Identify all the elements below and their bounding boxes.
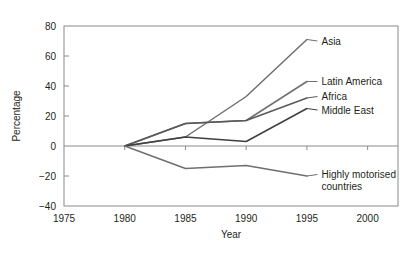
- x-axis-tick-label: 1995: [296, 213, 319, 224]
- y-axis-title: Percentage: [11, 90, 22, 142]
- x-axis-tick-label: 1990: [235, 213, 258, 224]
- y-axis-tick-label: 0: [50, 141, 56, 152]
- false: [307, 40, 318, 42]
- series-line-middle-east: [125, 109, 307, 147]
- y-axis-tick-label: −20: [39, 171, 56, 182]
- y-axis-tick-label: −40: [39, 201, 56, 212]
- series-label-africa: Africa: [321, 91, 347, 102]
- x-axis-tick-label: 2000: [357, 213, 380, 224]
- line-chart: −40−20020406080197519801985199019952000Y…: [0, 0, 413, 259]
- series-label-middle-east: Middle East: [321, 105, 373, 116]
- chart-canvas: −40−20020406080197519801985199019952000Y…: [0, 0, 413, 259]
- false: [307, 97, 318, 99]
- series-label-latin-america: Latin America: [321, 76, 382, 87]
- y-axis-tick-label: 20: [45, 111, 57, 122]
- y-axis-tick-label: 80: [45, 21, 57, 32]
- series-line-asia: [125, 40, 307, 147]
- x-axis-tick-label: 1985: [174, 213, 197, 224]
- false: [307, 175, 318, 177]
- x-axis-tick-label: 1980: [114, 213, 137, 224]
- false: [307, 109, 318, 111]
- y-axis-tick-label: 40: [45, 81, 57, 92]
- y-axis-tick-label: 60: [45, 51, 57, 62]
- series-line-highly-motorised-countries: [125, 146, 307, 176]
- x-axis-tick-label: 1975: [53, 213, 76, 224]
- series-label-asia: Asia: [321, 36, 341, 47]
- x-axis-title: Year: [221, 229, 242, 240]
- series-label-highly-motorised-countries-line2: countries: [321, 181, 362, 192]
- series-label-highly-motorised-countries: Highly motorised: [321, 169, 395, 180]
